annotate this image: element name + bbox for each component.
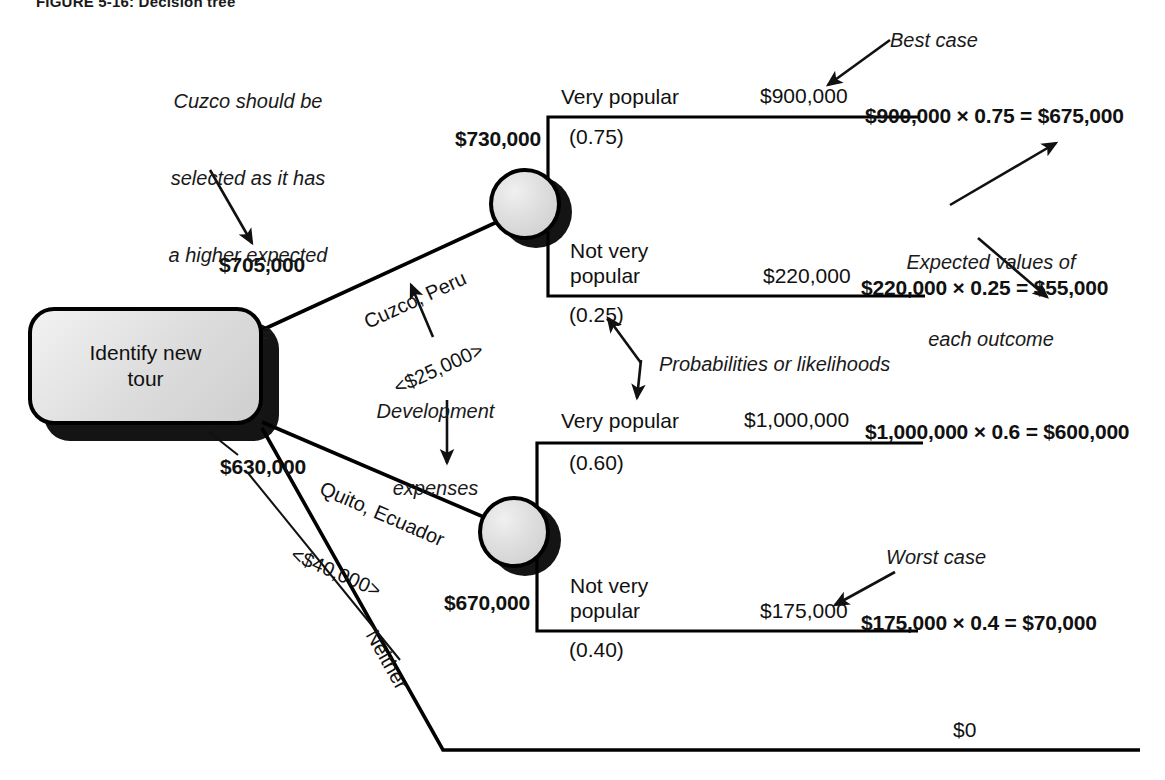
node-value-cuzco: $730,000 xyxy=(455,127,541,151)
outcome-label-quito-not-very-popular-line1: Not very xyxy=(570,574,648,598)
decision-node-label-line2: tour xyxy=(89,366,201,392)
payoff-quito-very-popular: $1,000,000 xyxy=(744,408,849,432)
payoff-neither: $0 xyxy=(953,718,976,742)
outcome-label-cuzco-not-very-popular-line1: Not very xyxy=(570,239,648,263)
decision-node-label: Identify new tour xyxy=(89,340,201,391)
annotation-recommendation-line2: selected as it has xyxy=(143,166,353,192)
node-value-quito: $670,000 xyxy=(444,591,530,615)
annotation-recommendation-line1: Cuzco should be xyxy=(143,89,353,115)
figure-title: FIGURE 5-16: Decision tree xyxy=(36,0,235,10)
probability-cuzco-very-popular: (0.75) xyxy=(569,125,624,149)
annotation-development-expenses-line1: Development xyxy=(353,399,518,425)
chance-node-quito[interactable] xyxy=(478,496,550,568)
chance-node-cuzco[interactable] xyxy=(489,168,561,240)
annotation-expected-values-line2: each outcome xyxy=(876,327,1106,353)
payoff-quito-not-very-popular: $175,000 xyxy=(760,599,848,623)
outcome-label-cuzco-very-popular: Very popular xyxy=(561,85,679,109)
outcome-label-quito-very-popular: Very popular xyxy=(561,409,679,433)
arrow-best-case xyxy=(828,40,890,85)
annotation-best-case: Best case xyxy=(890,28,978,54)
annotation-worst-case: Worst case xyxy=(886,545,986,571)
arrow-expected-values-up xyxy=(950,143,1056,205)
outcome-label-quito-not-very-popular-line2: popular xyxy=(570,599,640,623)
branch-label-quito-cost: <$40,000> xyxy=(288,542,420,617)
rollback-value-quito-net: $630,000 xyxy=(220,455,306,479)
annotation-development-expenses-line2: expenses xyxy=(353,476,518,502)
annotation-recommendation-line3: a higher expected xyxy=(143,243,353,269)
calculation-cuzco-very-popular: $900,000 × 0.75 = $675,000 xyxy=(865,104,1124,128)
payoff-cuzco-very-popular: $900,000 xyxy=(760,84,848,108)
outcome-label-cuzco-not-very-popular-line2: popular xyxy=(570,264,640,288)
decision-node-label-line1: Identify new xyxy=(89,340,201,366)
probability-quito-very-popular: (0.60) xyxy=(569,451,624,475)
probability-quito-not-very-popular: (0.40) xyxy=(569,638,624,662)
calculation-quito-not-very-popular: $175,000 × 0.4 = $70,000 xyxy=(861,611,1097,635)
annotation-probabilities: Probabilities or likelihoods xyxy=(659,352,890,378)
probability-cuzco-not-very-popular: (0.25) xyxy=(569,303,624,327)
calculation-quito-very-popular: $1,000,000 × 0.6 = $600,000 xyxy=(865,420,1129,444)
decision-node-identify-new-tour[interactable]: Identify new tour xyxy=(28,307,263,425)
branch-label-cuzco-name: Cuzco, Peru xyxy=(360,266,470,334)
annotation-expected-values-line1: Expected values of xyxy=(876,250,1106,276)
arrow-probabilities-down xyxy=(637,360,641,398)
payoff-cuzco-not-very-popular: $220,000 xyxy=(763,264,851,288)
annotation-expected-values: Expected values of each outcome xyxy=(876,199,1106,404)
decision-tree-figure: FIGURE 5-16: Decision tree Identify new … xyxy=(0,0,1165,780)
